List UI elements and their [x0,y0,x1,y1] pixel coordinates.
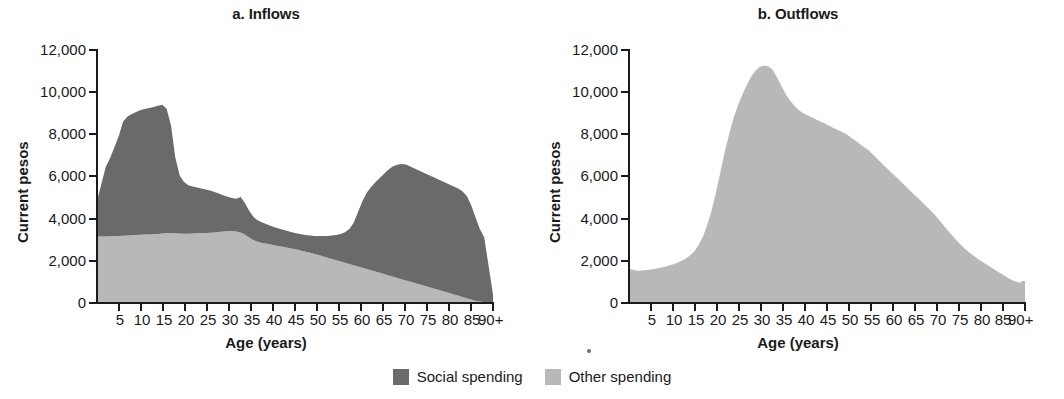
y-tick-label: 6,000 [548,167,618,184]
x-tick-mark [870,304,872,311]
x-tick-mark [760,304,762,311]
y-tick-mark [621,49,628,51]
y-tick-mark [89,133,96,135]
x-tick-mark [360,304,362,311]
figure-inflows-outflows: a. Inflows Current pesos 0 2,000 4,000 6… [0,0,1064,399]
x-tick-mark [250,304,252,311]
stray-speck [587,349,591,353]
x-tick-mark [272,304,274,311]
x-tick-mark [1024,304,1026,311]
y-tick-label: 4,000 [16,210,86,227]
plot-area-outflows [629,50,1025,303]
y-tick-mark [89,260,96,262]
legend-swatch-light-icon [545,369,561,385]
y-axis-line [96,49,98,304]
x-tick-mark [958,304,960,311]
y-tick-label: 8,000 [16,125,86,142]
y-tick-label: 10,000 [16,83,86,100]
y-tick-label: 4,000 [548,210,618,227]
y-tick-label: 2,000 [548,252,618,269]
x-tick-mark [716,304,718,311]
x-tick-mark [492,304,494,311]
y-tick-label: 12,000 [548,41,618,58]
legend-swatch-dark-icon [393,369,409,385]
x-tick-mark [316,304,318,311]
x-tick-mark [228,304,230,311]
x-tick-mark [206,304,208,311]
x-tick-mark [672,304,674,311]
x-tick-label: 90+ [478,311,522,328]
x-tick-mark [184,304,186,311]
x-tick-mark [470,304,472,311]
y-tick-mark [89,218,96,220]
y-tick-mark [621,91,628,93]
y-axis-label-outflows: Current pesos [546,141,563,243]
y-tick-label: 2,000 [16,252,86,269]
y-tick-mark [89,49,96,51]
y-tick-label: 10,000 [548,83,618,100]
x-tick-mark [782,304,784,311]
y-tick-label: 6,000 [16,167,86,184]
y-tick-label: 0 [16,294,86,311]
x-tick-label: 90+ [1008,311,1052,328]
y-tick-mark [621,133,628,135]
x-tick-mark [936,304,938,311]
x-axis-label-inflows: Age (years) [0,334,532,351]
y-tick-mark [621,175,628,177]
y-tick-label: 8,000 [548,125,618,142]
x-tick-mark [826,304,828,311]
legend-label-social-spending: Social spending [417,368,523,385]
x-axis-label-outflows: Age (years) [532,334,1064,351]
panel-title-outflows: b. Outflows [532,5,1064,22]
panel-outflows: b. Outflows Current pesos 0 2,000 4,000 … [532,0,1064,365]
x-tick-mark [118,304,120,311]
x-tick-mark [804,304,806,311]
x-tick-mark [426,304,428,311]
y-tick-mark [621,260,628,262]
y-axis-line [628,49,630,304]
x-tick-mark [338,304,340,311]
plot-area-inflows [97,50,493,303]
x-tick-mark [694,304,696,311]
legend-item-social-spending: Social spending [393,368,523,385]
x-tick-mark [980,304,982,311]
x-tick-mark [140,304,142,311]
panel-title-inflows: a. Inflows [0,5,532,22]
y-tick-label: 0 [548,294,618,311]
y-tick-mark [89,302,96,304]
x-tick-mark [738,304,740,311]
y-tick-mark [89,175,96,177]
x-tick-mark [650,304,652,311]
panel-inflows: a. Inflows Current pesos 0 2,000 4,000 6… [0,0,532,365]
x-tick-mark [848,304,850,311]
y-axis-label-inflows: Current pesos [14,141,31,243]
x-tick-mark [914,304,916,311]
legend-item-other-spending: Other spending [545,368,672,385]
x-tick-mark [892,304,894,311]
area-other-spending-outflows [629,66,1025,303]
y-tick-mark [621,302,628,304]
y-tick-mark [621,218,628,220]
y-tick-label: 12,000 [16,41,86,58]
x-tick-mark [1002,304,1004,311]
x-tick-mark [448,304,450,311]
chart-legend: Social spending Other spending [0,368,1064,385]
y-tick-mark [89,91,96,93]
x-tick-mark [294,304,296,311]
x-tick-mark [382,304,384,311]
x-tick-mark [404,304,406,311]
legend-label-other-spending: Other spending [569,368,672,385]
x-tick-mark [162,304,164,311]
